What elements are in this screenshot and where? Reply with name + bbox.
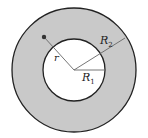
point-dot (42, 35, 46, 39)
annulus-diagram: r R2 R1 (0, 0, 148, 138)
